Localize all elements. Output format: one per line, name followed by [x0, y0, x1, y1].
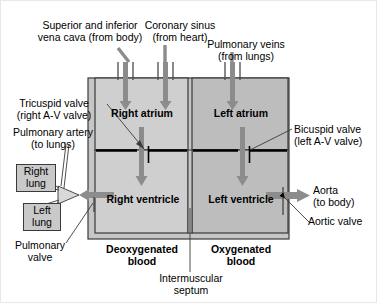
label-bicuspid-valve: Bicuspid valve (left A-V valve)	[294, 124, 377, 147]
label-aorta: Aorta (to body)	[313, 185, 375, 208]
heart-diagram: Superior and inferior vena cava (from bo…	[0, 0, 377, 303]
label-pulmonary-valve: Pulmonary valve	[2, 240, 78, 263]
label-intermuscular-septum: Intermuscular septum	[146, 273, 236, 296]
vena-cava-leader	[118, 48, 129, 62]
right-ventricle-label: Right ventricle	[100, 193, 186, 205]
left-ventricle-label: Left ventricle	[201, 193, 281, 205]
left-lung-box: Left lung	[23, 203, 61, 231]
label-pulmonary-veins: Pulmonary veins (from lungs)	[196, 39, 296, 62]
label-pulmonary-artery: Pulmonary artery (to lungs)	[0, 127, 106, 150]
label-oxygenated-blood: Oxygenated blood	[200, 244, 282, 267]
label-deoxygenated-blood: Deoxygenated blood	[98, 244, 186, 267]
left-atrium-label: Left atrium	[206, 107, 276, 119]
label-tricuspid-valve: Tricuspid valve (right A-V valve)	[2, 98, 106, 121]
right-atrium-label: Right atrium	[103, 107, 181, 119]
label-aortic-valve: Aortic valve	[308, 216, 377, 228]
right-lung-box: Right lung	[16, 164, 56, 192]
